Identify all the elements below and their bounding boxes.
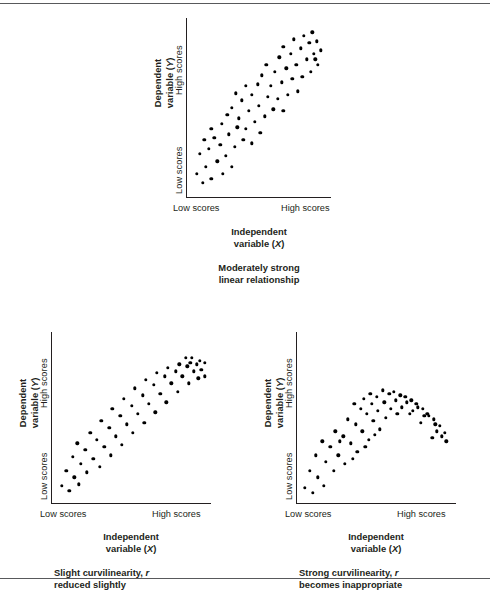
y-tick-high-top: High scores <box>174 45 184 95</box>
x-tick-low-top: Low scores <box>173 203 219 213</box>
scatter-dot <box>189 361 192 364</box>
scatter-dot <box>221 172 224 175</box>
scatter-dot <box>210 177 213 180</box>
scatter-dot <box>372 419 375 422</box>
scatter-dot <box>273 70 276 73</box>
scatter-dot <box>286 93 289 96</box>
scatter-dot <box>88 431 91 434</box>
scatter-dot <box>309 70 312 73</box>
scatter-dot <box>190 356 193 359</box>
scatter-plot-bottom-left <box>51 332 211 504</box>
scatter-dot <box>236 125 239 128</box>
scatter-dot <box>114 435 117 438</box>
scatter-dot <box>269 84 272 87</box>
scatter-dot <box>244 84 247 87</box>
scatter-dot <box>68 489 71 492</box>
scatter-dot <box>392 390 395 393</box>
scatter-dot <box>276 97 279 100</box>
caption-bl-line1: Slight curvilinearity, r <box>54 567 149 578</box>
x-axis-title-line1-bl: Independent <box>103 531 159 542</box>
scatter-dot <box>130 404 133 407</box>
caption-bottom-right: Strong curvilinearity, r becomes inappro… <box>299 567 489 591</box>
scatter-dot <box>120 443 123 446</box>
scatter-dot <box>133 387 136 390</box>
scatter-dot <box>378 428 381 431</box>
y-axis-title-line2-br: variable (Y) <box>274 378 285 429</box>
scatter-dot <box>360 429 363 432</box>
scatter-dot <box>438 424 441 427</box>
scatter-dot <box>338 440 341 443</box>
scatter-dot <box>166 366 169 369</box>
scatter-dot <box>384 416 387 419</box>
scatter-dot <box>230 106 233 109</box>
scatter-dot <box>226 113 229 116</box>
scatter-dot <box>333 429 336 432</box>
x-axis-symbol-br: X <box>392 543 398 554</box>
scatter-dot <box>195 363 198 366</box>
scatter-dot <box>343 462 346 465</box>
scatter-dot <box>241 138 244 141</box>
x-axis-title-line1-br: Independent <box>348 531 404 542</box>
scatter-dot <box>198 359 201 362</box>
y-axis-title-line1: Dependent <box>152 59 163 107</box>
scatter-dot <box>445 440 448 443</box>
x-axis-symbol-bl: X <box>147 543 153 554</box>
scatter-dot <box>315 40 318 43</box>
scatter-dot <box>244 127 247 130</box>
scatter-dot <box>227 133 230 136</box>
scatter-dot <box>158 392 161 395</box>
scatter-dot <box>234 91 237 94</box>
scatter-plot-bottom-right <box>296 332 456 504</box>
scatter-dot <box>155 371 158 374</box>
scatter-dot <box>319 49 322 52</box>
scatter-dot <box>383 400 386 403</box>
scatter-dot <box>430 436 433 439</box>
x-axis-title-line2-br: variable (X) <box>351 543 402 554</box>
x-axis-title-line2-bl: variable (X) <box>106 543 157 554</box>
scatter-dot <box>434 423 437 426</box>
scatter-dot <box>220 122 223 125</box>
scatter-dot <box>247 109 250 112</box>
y-axis-title-line2: variable (Y) <box>164 58 175 109</box>
scatter-dot <box>77 482 80 485</box>
scatter-dot <box>370 402 373 405</box>
scatter-dot <box>321 440 324 443</box>
scatter-dot <box>79 462 82 465</box>
scatter-dot <box>368 392 371 395</box>
scatter-dot <box>76 441 79 444</box>
scatter-dot <box>256 83 259 86</box>
scatter-dot <box>313 57 316 60</box>
scatter-dot <box>259 131 262 134</box>
scatter-dot <box>400 406 403 409</box>
caption-bl-line2: reduced slightly <box>54 579 126 590</box>
scatter-dot <box>311 31 314 34</box>
scatter-dot <box>289 52 292 55</box>
scatter-dot <box>203 138 206 141</box>
scatter-dot <box>375 395 378 398</box>
scatter-dot <box>100 419 103 422</box>
scatter-dot <box>141 394 144 397</box>
scatter-dot <box>359 407 362 410</box>
scatter-dot <box>362 397 365 400</box>
scatter-dot <box>163 375 166 378</box>
x-tick-high-br: High scores <box>397 509 446 519</box>
scatter-dot <box>73 476 76 479</box>
caption-br-line1: Strong curvilinearity, r <box>299 567 398 578</box>
scatter-dot <box>443 431 446 434</box>
scatter-dot <box>311 491 314 494</box>
y-tick-low-bl: Low scores <box>39 453 49 500</box>
bottom-divider-rule <box>0 578 490 579</box>
scatter-points-bottom-right <box>297 332 456 503</box>
scatter-dot <box>302 34 305 37</box>
scatter-dot <box>144 378 147 381</box>
scatter-dot <box>119 414 122 417</box>
scatter-dot <box>60 484 63 487</box>
y-axis-symbol-br: Y <box>274 381 285 387</box>
scatter-dot <box>204 165 207 168</box>
caption-br-symbol: r <box>395 567 399 578</box>
scatter-dot <box>411 409 414 412</box>
scatter-dot <box>299 47 302 50</box>
scatter-dot <box>346 418 349 421</box>
caption-top-line2: linear relationship <box>219 274 300 285</box>
scatter-dot <box>351 457 354 460</box>
